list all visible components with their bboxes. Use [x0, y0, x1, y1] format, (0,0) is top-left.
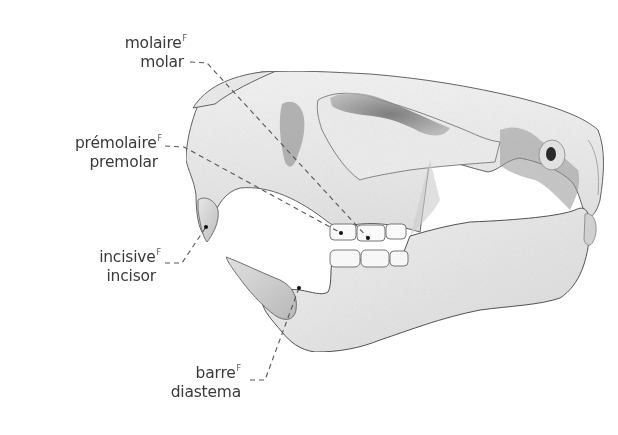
label-diastema: barreF diastema	[171, 359, 241, 402]
label-diastema-french: barre	[196, 364, 236, 382]
lower-molar-row	[330, 250, 408, 267]
label-diastema-english: diastema	[171, 383, 241, 401]
label-molar-english: molar	[140, 53, 184, 71]
label-molar-french: molaire	[125, 34, 182, 52]
label-premolar-french: prémolaire	[75, 134, 157, 152]
french-marker: F	[158, 134, 162, 143]
skull-illustration	[0, 0, 618, 435]
leader-incisor	[165, 227, 206, 263]
label-incisor: incisiveF incisor	[99, 243, 161, 286]
cranium	[186, 71, 604, 236]
french-marker: F	[237, 364, 241, 373]
dot-molar	[366, 236, 370, 240]
label-premolar: prémolaireF premolar	[75, 129, 162, 172]
french-marker: F	[157, 248, 161, 257]
french-marker: F	[183, 34, 187, 43]
dot-incisor	[204, 225, 208, 229]
label-incisor-french: incisive	[99, 248, 155, 266]
label-incisor-english: incisor	[107, 267, 157, 285]
label-premolar-english: premolar	[89, 153, 158, 171]
dot-diastema	[297, 286, 301, 290]
dot-premolar	[339, 231, 343, 235]
upper-incisor	[198, 198, 218, 242]
label-molar: molaireF molar	[125, 29, 187, 72]
